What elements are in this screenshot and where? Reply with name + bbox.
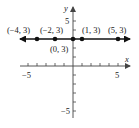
y-axis-label: y [63,3,68,13]
x-tick-label-neg5: −5 [22,70,31,80]
y-tick-label-neg5: −5 [61,106,70,116]
x-tick-label-pos5: 5 [115,70,119,80]
y-axis [73,7,76,118]
point-label-1-3: (1, 3) [82,25,101,35]
point-label-0-3: (0, 3) [50,44,69,54]
coordinate-plane: x y −5 5 5 −5 (−4, 3) (−2, 3) (0, 3) (1,… [0,0,139,128]
point-label-neg4-3: (−4, 3) [7,25,30,35]
point-0-3 [71,37,76,42]
point-neg2-3 [53,37,58,42]
y-tick-label-pos5: 5 [65,16,69,26]
point-label-neg2-3: (−2, 3) [40,25,63,35]
point-5-3 [116,37,121,42]
x-axis [20,63,130,66]
point-neg4-3 [35,37,40,42]
x-axis-label: x [124,54,129,64]
point-1-3 [80,37,85,42]
point-label-5-3: (5, 3) [108,25,127,35]
